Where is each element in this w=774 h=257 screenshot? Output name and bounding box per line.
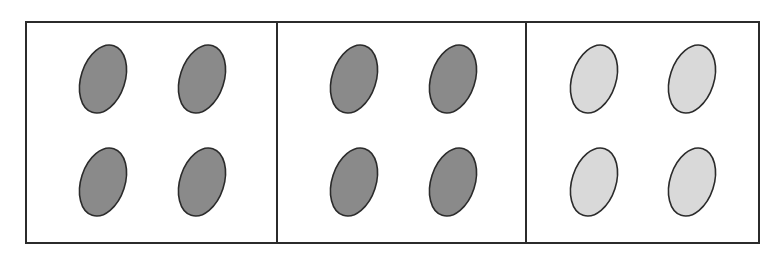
panel-border <box>526 22 759 243</box>
oval-diagram <box>0 0 774 257</box>
panel-border <box>26 22 277 243</box>
panel-border <box>277 22 526 243</box>
panel-1 <box>26 22 277 243</box>
panel-3 <box>526 22 759 243</box>
panel-2 <box>277 22 526 243</box>
